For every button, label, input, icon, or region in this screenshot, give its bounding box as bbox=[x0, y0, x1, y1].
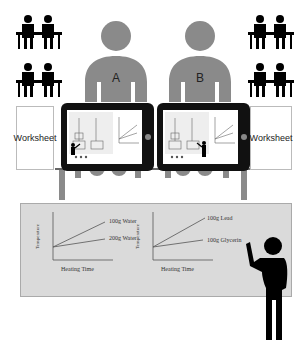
chart-lead-series-2-label: 100g Glycerin bbox=[207, 237, 242, 243]
classroom-group-icon bbox=[14, 62, 64, 98]
worksheet-right-label: Worksheet bbox=[250, 133, 293, 143]
worksheet-left: Worksheet bbox=[16, 106, 54, 170]
classroom-group-icon bbox=[246, 14, 296, 50]
chart-lead-series-1-label: 100g Lead bbox=[207, 215, 233, 221]
worksheet-left-label: Worksheet bbox=[14, 133, 57, 143]
chart-water-xlabel: Heating Time bbox=[61, 266, 94, 272]
desk bbox=[55, 168, 255, 200]
tablet-b bbox=[157, 103, 250, 171]
teacher-figure-icon bbox=[240, 236, 290, 342]
student-a-figure-icon bbox=[83, 20, 149, 102]
worksheet-right: Worksheet bbox=[250, 106, 292, 170]
classroom-group-icon bbox=[14, 14, 64, 50]
tablet-a bbox=[61, 103, 154, 171]
chart-lead-xlabel: Heating Time bbox=[161, 266, 194, 272]
student-b-label: B bbox=[193, 71, 207, 85]
student-b-figure-icon bbox=[167, 20, 233, 102]
chart-water-ylabel: Temperature bbox=[35, 224, 40, 249]
student-a-label: A bbox=[109, 71, 123, 85]
chart-lead-ylabel: Temperature bbox=[135, 224, 140, 249]
classroom-group-icon bbox=[246, 62, 296, 98]
